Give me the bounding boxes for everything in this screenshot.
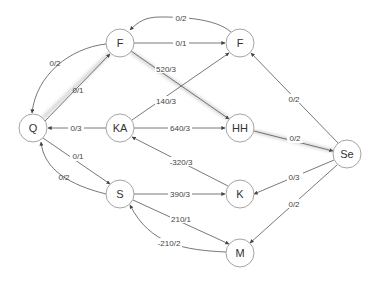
label-hh-se: 0/2	[289, 134, 301, 143]
label-f1-f2: 0/1	[175, 39, 187, 48]
label-k-ka: -320/3	[170, 158, 193, 167]
label-s-q: 0/2	[58, 173, 70, 182]
node-f-right: F	[226, 29, 254, 57]
node-label-ka: KA	[113, 122, 128, 134]
edge-f1-to-hh	[131, 51, 229, 119]
label-f1-q: 0/2	[49, 59, 61, 68]
node-label-s: S	[116, 188, 123, 200]
label-se-k: 0/3	[288, 173, 300, 182]
node-label-se: Se	[340, 148, 353, 160]
label-f1-hh: 520/3	[156, 65, 177, 74]
label-q-f1: 0/1	[72, 86, 84, 95]
node-label-f-left: F	[117, 37, 124, 49]
node-hh: HH	[226, 114, 254, 142]
label-se-f2: 0/2	[288, 95, 300, 104]
node-s: S	[106, 180, 134, 208]
node-ka: KA	[106, 114, 134, 142]
label-s-k: 390/3	[170, 190, 191, 199]
label-q-s: 0/1	[72, 152, 84, 161]
node-label-hh: HH	[232, 122, 248, 134]
label-ka-q: 0/3	[70, 124, 82, 133]
node-se: Se	[333, 140, 361, 168]
label-m-s: -210/2	[158, 239, 181, 248]
label-f2-f1: 0/2	[175, 14, 187, 23]
flow-network-diagram: 0/2 0/1 0/2 0/1 520/3 140/3 0/3 640/3 0/…	[0, 0, 378, 281]
node-k: K	[226, 180, 254, 208]
edge-f1-to-q	[32, 44, 106, 113]
node-label-k: K	[236, 188, 244, 200]
node-m: M	[226, 239, 254, 267]
node-label-m: M	[235, 247, 244, 259]
label-ka-f2: 140/3	[156, 97, 177, 106]
label-se-m: 0/2	[288, 200, 300, 209]
node-q: Q	[19, 114, 47, 142]
node-label-f-right: F	[237, 37, 244, 49]
edge-s-to-q	[41, 142, 106, 194]
node-f-left: F	[106, 29, 134, 57]
label-ka-hh: 640/3	[170, 124, 191, 133]
label-s-m: 210/1	[171, 215, 192, 224]
node-label-q: Q	[29, 122, 38, 134]
